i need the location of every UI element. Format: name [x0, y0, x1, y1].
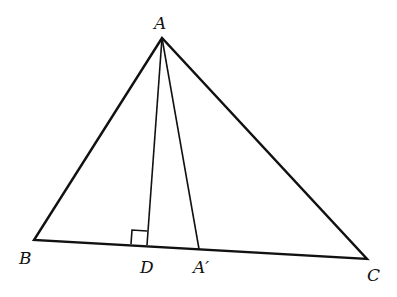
label-d: D [139, 257, 154, 277]
label-b: B [18, 248, 32, 268]
median-aa-prime [162, 38, 199, 249]
label-c: C [367, 265, 380, 285]
triangle-diagram: A B C D A′ [0, 0, 397, 297]
right-angle-mark [131, 230, 147, 244]
label-a-prime: A′ [191, 257, 209, 277]
altitude-ad [147, 38, 162, 245]
label-a: A [152, 13, 166, 33]
triangle-abc [34, 38, 367, 259]
